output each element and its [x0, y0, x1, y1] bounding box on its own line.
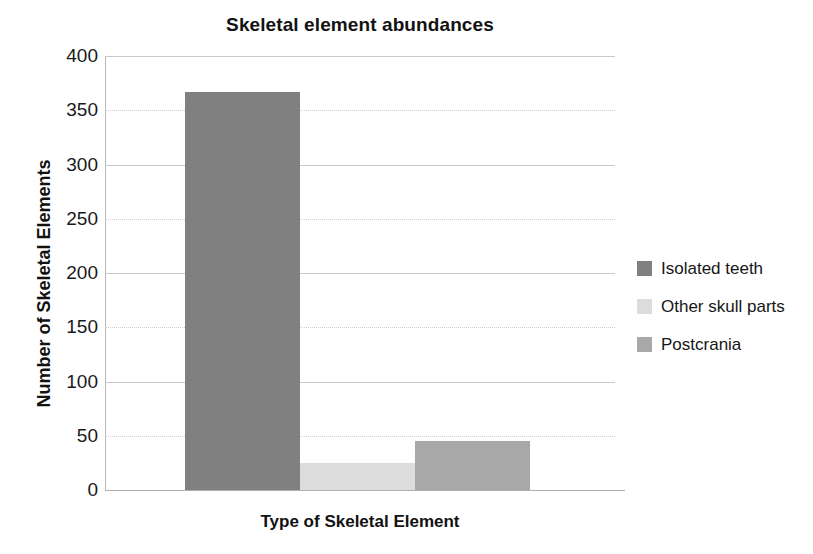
chart-legend: Isolated teethOther skull partsPostcrani… — [637, 249, 785, 363]
y-axis-tick-label: 300 — [34, 155, 98, 174]
y-axis-tick-label: 150 — [34, 317, 98, 336]
bar-chart: Skeletal element abundances Number of Sk… — [0, 0, 813, 554]
bar — [300, 463, 415, 490]
bar — [415, 441, 530, 490]
gridline — [105, 382, 615, 383]
gridline — [105, 110, 615, 111]
y-axis-tick-label: 100 — [34, 372, 98, 391]
gridline — [105, 327, 615, 328]
legend-item[interactable]: Other skull parts — [637, 287, 785, 325]
y-axis-tick-label: 250 — [34, 209, 98, 228]
bar — [185, 92, 300, 490]
legend-swatch-icon — [637, 261, 652, 276]
gridline — [105, 56, 615, 57]
plot-area — [105, 56, 615, 490]
gridline — [105, 165, 615, 166]
gridline — [105, 436, 615, 437]
gridline — [105, 273, 615, 274]
y-axis-tick-label: 200 — [34, 263, 98, 282]
legend-label: Isolated teeth — [661, 260, 763, 277]
y-axis-tick-label: 50 — [34, 426, 98, 445]
legend-label: Postcrania — [661, 336, 741, 353]
x-axis-line — [105, 490, 625, 491]
legend-swatch-icon — [637, 299, 652, 314]
gridline — [105, 219, 615, 220]
legend-item[interactable]: Isolated teeth — [637, 249, 785, 287]
y-axis-tick-label: 350 — [34, 100, 98, 119]
legend-label: Other skull parts — [661, 298, 785, 315]
chart-title: Skeletal element abundances — [105, 14, 615, 36]
legend-item[interactable]: Postcrania — [637, 325, 785, 363]
y-axis-tick-label: 400 — [34, 46, 98, 65]
x-axis-title: Type of Skeletal Element — [105, 512, 615, 532]
legend-swatch-icon — [637, 337, 652, 352]
y-axis-tick-labels: 400350300250200150100500 — [26, 0, 98, 554]
y-axis-tick-label: 0 — [34, 480, 98, 499]
